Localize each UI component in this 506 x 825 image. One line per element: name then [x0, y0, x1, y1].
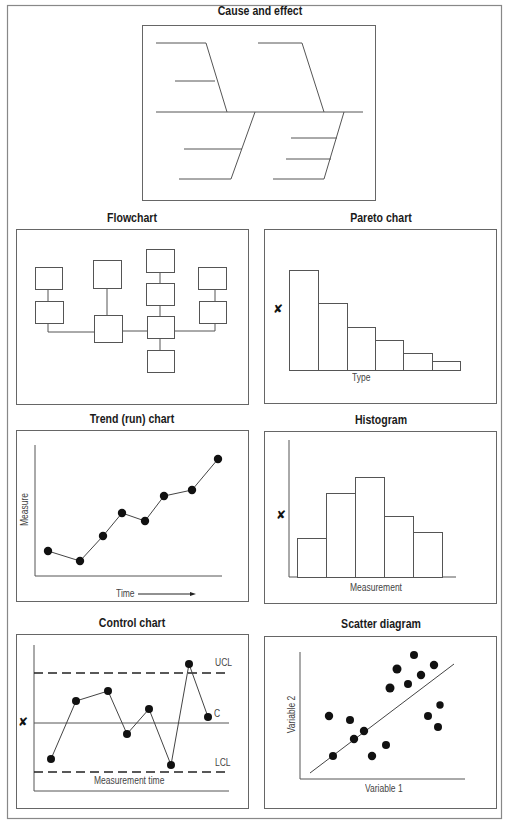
title-scatter: Scatter diagram — [319, 617, 442, 631]
pareto-bar — [290, 271, 319, 371]
histogram-bar — [414, 533, 443, 578]
x-symbol-icon: ✘ — [276, 508, 286, 522]
title-histogram: Histogram — [319, 413, 442, 427]
trend-chart — [17, 431, 249, 602]
pareto-bar — [348, 328, 376, 371]
arrow-right-icon — [190, 592, 196, 596]
pareto-xlabel: Type — [352, 372, 370, 383]
cause-effect-diagram — [143, 26, 376, 201]
x-symbol-icon: ✘ — [18, 715, 28, 729]
scatter-xlabel: Variable 1 — [365, 783, 403, 794]
flow-box — [147, 250, 175, 273]
quality-tools-figure: Cause and effect Flowchart Pareto chart … — [0, 0, 506, 825]
pareto-bar — [404, 354, 433, 371]
histogram-xlabel: Measurement — [350, 582, 402, 593]
pareto-bar — [319, 304, 348, 371]
flow-box — [94, 261, 122, 289]
title-cause-effect: Cause and effect — [198, 4, 321, 18]
title-flowchart: Flowchart — [70, 211, 193, 225]
flow-box — [200, 302, 227, 324]
title-control: Control chart — [70, 616, 193, 630]
flow-box — [36, 302, 64, 324]
histogram-bar — [298, 539, 327, 578]
lcl-label: LCL — [215, 757, 231, 768]
histogram-chart — [265, 432, 497, 604]
flow-box — [147, 284, 175, 306]
ucl-label: UCL — [215, 657, 232, 668]
pareto-bar — [433, 362, 461, 371]
trend-xlabel: Time — [116, 588, 135, 599]
title-trend: Trend (run) chart — [70, 412, 193, 426]
histogram-bar — [385, 517, 414, 578]
flow-box — [36, 268, 63, 290]
flow-box — [95, 316, 123, 343]
histogram-bar — [356, 478, 385, 578]
flowchart-diagram — [17, 230, 249, 405]
histogram-bar — [327, 494, 356, 578]
center-label: C — [214, 708, 220, 719]
control-xlabel: Measurement time — [94, 775, 164, 786]
pareto-chart — [265, 230, 497, 404]
title-pareto: Pareto chart — [319, 211, 442, 225]
scatter-ylabel: Variable 2 — [286, 693, 297, 736]
flow-box — [199, 268, 227, 290]
flow-box — [148, 317, 175, 339]
x-symbol-icon: ✘ — [273, 302, 283, 316]
trend-ylabel: Measure — [19, 493, 30, 527]
pareto-bar — [376, 341, 404, 371]
flow-box — [148, 351, 175, 373]
